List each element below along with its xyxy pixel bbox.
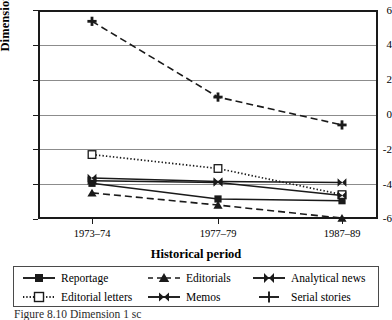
legend-item-editorial-letters[interactable]: Editorial letters bbox=[22, 288, 132, 306]
legend-swatch-serial-stories bbox=[252, 289, 286, 305]
y-tick-mark-neg6 bbox=[33, 219, 38, 220]
y-axis-title: Dimension score bbox=[0, 0, 13, 62]
legend-swatch-analytical-news bbox=[252, 270, 286, 286]
x-tick-label-1977: 1977–79 bbox=[183, 228, 253, 239]
gridline-2 bbox=[40, 80, 376, 81]
x-tick-mark-1977 bbox=[218, 219, 219, 224]
legend-row-2: Editorial letters Memos Serial stories bbox=[14, 288, 378, 306]
gridline-neg2 bbox=[40, 149, 376, 150]
legend-item-editorials[interactable]: Editorials bbox=[147, 269, 231, 287]
legend-swatch-editorials bbox=[147, 270, 181, 286]
gridline-0 bbox=[40, 115, 376, 116]
legend-swatch-reportage bbox=[22, 270, 56, 286]
legend-item-memos[interactable]: Memos bbox=[147, 288, 221, 306]
x-tick-mark-1973 bbox=[92, 219, 93, 224]
gridline-neg4 bbox=[40, 184, 376, 185]
gridline-4 bbox=[40, 45, 376, 46]
legend-item-serial-stories[interactable]: Serial stories bbox=[252, 288, 351, 306]
legend-swatch-memos bbox=[147, 289, 181, 305]
legend-label-editorial-letters: Editorial letters bbox=[56, 291, 132, 303]
x-tick-label-1987: 1987–89 bbox=[307, 228, 377, 239]
x-tick-label-1973: 1973–74 bbox=[57, 228, 127, 239]
legend-item-reportage[interactable]: Reportage bbox=[22, 269, 108, 287]
legend-label-editorials: Editorials bbox=[181, 272, 231, 284]
legend-label-memos: Memos bbox=[181, 291, 221, 303]
figure-caption: Figure 8.10 Dimension 1 sc bbox=[14, 308, 384, 320]
legend-row-1: Reportage Editorials Analytical news bbox=[14, 269, 378, 287]
x-tick-mark-1987 bbox=[342, 219, 343, 224]
legend-swatch-editorial-letters bbox=[22, 289, 56, 305]
x-axis-title: Historical period bbox=[0, 247, 392, 262]
legend-label-reportage: Reportage bbox=[56, 272, 108, 284]
legend: Reportage Editorials Analytical news bbox=[13, 266, 379, 307]
legend-label-analytical-news: Analytical news bbox=[286, 272, 365, 284]
legend-label-serial-stories: Serial stories bbox=[286, 291, 351, 303]
plot-area bbox=[38, 10, 378, 219]
legend-item-analytical-news[interactable]: Analytical news bbox=[252, 269, 365, 287]
